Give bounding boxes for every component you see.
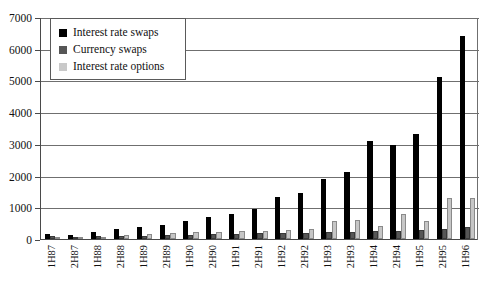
bar-2h95-series0 <box>437 77 442 239</box>
x-tick-label-2h95: 2H95 <box>438 245 449 268</box>
bar-2h93-series2 <box>355 220 360 239</box>
x-label-cell: 1H94 <box>363 243 386 291</box>
x-label-cell: 1H87 <box>40 243 63 291</box>
legend-label-0: Interest rate swaps <box>73 27 159 39</box>
x-label-cell: 2H93 <box>340 243 363 291</box>
bar-2h89-series2 <box>170 233 175 239</box>
bar-1h87-series2 <box>55 237 60 239</box>
bar-group-2h95 <box>433 17 456 239</box>
bar-1h96-series0 <box>460 36 465 239</box>
bar-group-1h94 <box>364 17 387 239</box>
x-tick-label-1h87: 1H87 <box>46 245 57 268</box>
bar-1h93-series0 <box>321 179 326 239</box>
x-label-cell: 1H92 <box>270 243 293 291</box>
x-tick-label-1h90: 1H90 <box>185 245 196 268</box>
bar-1h89-series2 <box>147 234 152 239</box>
x-tick-label-2h87: 2H87 <box>69 245 80 268</box>
bar-chart: 01000200030004000500060007000 1H872H871H… <box>0 0 488 291</box>
bar-1h90-series2 <box>193 232 198 239</box>
x-tick-label-2h88: 2H88 <box>115 245 126 268</box>
x-label-cell: 2H90 <box>201 243 224 291</box>
x-tick-label-2h90: 2H90 <box>208 245 219 268</box>
bar-1h88-series2 <box>101 237 106 239</box>
x-tick-label-1h95: 1H95 <box>415 245 426 268</box>
y-tick-label-7000: 7000 <box>9 13 32 24</box>
x-tick-label-2h93: 2H93 <box>346 245 357 268</box>
bar-1h94-series0 <box>367 141 372 239</box>
bar-1h95-series2 <box>424 221 429 239</box>
x-label-cell: 2H92 <box>294 243 317 291</box>
x-label-cell: 2H88 <box>109 243 132 291</box>
bar-1h95-series0 <box>413 134 418 239</box>
bar-1h94-series2 <box>378 226 383 239</box>
y-axis: 01000200030004000500060007000 <box>0 0 38 291</box>
x-label-cell: 1H90 <box>178 243 201 291</box>
chart-legend: Interest rate swapsCurrency swapsInteres… <box>50 18 186 80</box>
x-tick-label-1h93: 1H93 <box>323 245 334 268</box>
x-tick-label-1h88: 1H88 <box>92 245 103 268</box>
legend-item-1: Currency swaps <box>59 41 185 58</box>
dark-grey-square-icon <box>59 46 67 54</box>
x-label-cell: 2H87 <box>63 243 86 291</box>
y-tick-label-1000: 1000 <box>9 203 32 214</box>
black-square-icon <box>59 29 67 37</box>
bar-group-2h94 <box>387 17 410 239</box>
y-tick-label-6000: 6000 <box>9 44 32 55</box>
x-label-cell: 1H95 <box>409 243 432 291</box>
bar-2h92-series2 <box>309 229 314 239</box>
bar-group-1h92 <box>271 17 294 239</box>
bar-group-2h92 <box>295 17 318 239</box>
legend-item-2: Interest rate options <box>59 58 185 75</box>
x-tick-label-2h94: 2H94 <box>392 245 403 268</box>
y-tick-label-0: 0 <box>26 235 32 246</box>
bar-group-1h95 <box>410 17 433 239</box>
x-label-cell: 1H96 <box>455 243 478 291</box>
x-label-cell: 2H89 <box>155 243 178 291</box>
bar-group-2h90 <box>202 17 225 239</box>
bar-2h88-series2 <box>124 235 129 239</box>
bar-2h91-series2 <box>263 231 268 239</box>
bar-group-1h96 <box>456 17 479 239</box>
x-axis-labels: 1H872H871H882H881H892H891H902H901H912H91… <box>40 243 478 291</box>
bar-group-1h93 <box>318 17 341 239</box>
x-label-cell: 2H94 <box>386 243 409 291</box>
bar-1h93-series2 <box>332 221 337 239</box>
bar-2h95-series2 <box>447 198 452 239</box>
bar-group-2h93 <box>341 17 364 239</box>
y-tick-label-5000: 5000 <box>9 76 32 87</box>
x-label-cell: 1H89 <box>132 243 155 291</box>
x-tick-label-1h89: 1H89 <box>138 245 149 268</box>
bar-2h94-series0 <box>390 145 395 240</box>
bar-1h91-series2 <box>239 231 244 239</box>
x-tick-label-2h89: 2H89 <box>162 245 173 268</box>
bar-2h87-series2 <box>78 237 83 239</box>
y-tick-label-4000: 4000 <box>9 108 32 119</box>
legend-label-1: Currency swaps <box>73 44 147 56</box>
x-tick-label-1h91: 1H91 <box>231 245 242 268</box>
x-tick-label-2h92: 2H92 <box>300 245 311 268</box>
legend-label-2: Interest rate options <box>73 61 164 73</box>
x-label-cell: 1H93 <box>317 243 340 291</box>
bar-1h96-series2 <box>470 198 475 239</box>
light-grey-square-icon <box>59 63 67 71</box>
bar-group-2h91 <box>248 17 271 239</box>
legend-item-0: Interest rate swaps <box>59 24 185 41</box>
x-tick-label-1h92: 1H92 <box>277 245 288 268</box>
x-tick-label-1h96: 1H96 <box>461 245 472 268</box>
bar-2h94-series2 <box>401 214 406 239</box>
y-tick-label-3000: 3000 <box>9 139 32 150</box>
x-tick-label-2h91: 2H91 <box>254 245 265 268</box>
bar-2h90-series2 <box>216 232 221 239</box>
y-tick-mark-0 <box>35 240 40 241</box>
x-label-cell: 1H88 <box>86 243 109 291</box>
bar-group-1h91 <box>225 17 248 239</box>
x-label-cell: 2H95 <box>432 243 455 291</box>
y-tick-label-2000: 2000 <box>9 171 32 182</box>
x-tick-label-1h94: 1H94 <box>369 245 380 268</box>
x-label-cell: 2H91 <box>247 243 270 291</box>
bar-1h92-series2 <box>286 230 291 239</box>
x-label-cell: 1H91 <box>224 243 247 291</box>
bar-2h93-series0 <box>344 172 349 239</box>
